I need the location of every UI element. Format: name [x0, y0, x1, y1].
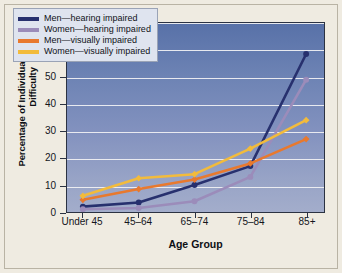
data-point-1-2: [192, 198, 198, 204]
y-tick-label-40: 40: [30, 99, 56, 109]
legend-item-3: Women—visually impaired: [18, 46, 151, 57]
x-tick-mark-0: [82, 213, 83, 218]
legend-item-2: Men—visually impaired: [18, 35, 151, 46]
x-tick-mark-1: [138, 213, 139, 218]
data-point-1-0: [80, 206, 86, 212]
series-line-1: [83, 80, 306, 210]
series-1: [80, 77, 309, 212]
legend-swatch-0: [18, 17, 39, 21]
x-tick-mark-3: [251, 213, 252, 218]
chart-legend: Men—hearing impairedWomen—hearing impair…: [13, 8, 158, 62]
legend-swatch-1: [18, 28, 39, 32]
data-point-2-1: [135, 186, 142, 193]
data-point-1-3: [247, 174, 253, 180]
y-tick-label-20: 20: [30, 153, 56, 163]
data-point-0-1: [136, 200, 142, 206]
x-tick-mark-2: [195, 213, 196, 218]
y-tick-label-10: 10: [30, 181, 56, 191]
legend-item-0: Men—hearing impaired: [18, 13, 151, 24]
legend-label-2: Men—visually impaired: [44, 36, 137, 45]
legend-swatch-2: [18, 39, 39, 43]
series-line-2: [83, 139, 306, 200]
data-point-1-1: [136, 205, 142, 211]
chart-figure: Percentage of Individuals Reporting Diff…: [0, 0, 342, 273]
series-2: [80, 136, 310, 203]
legend-swatch-3: [18, 50, 39, 54]
data-point-1-4: [303, 77, 309, 83]
y-tick-mark-0: [60, 213, 66, 214]
y-tick-label-30: 30: [30, 126, 56, 136]
y-tick-label-50: 50: [30, 72, 56, 82]
legend-label-3: Women—visually impaired: [44, 47, 150, 56]
legend-label-0: Men—hearing impaired: [44, 14, 138, 23]
legend-item-1: Women—hearing impaired: [18, 24, 151, 35]
x-axis-title: Age Group: [66, 238, 325, 250]
data-point-0-4: [303, 51, 309, 57]
legend-label-1: Women—hearing impaired: [44, 25, 151, 34]
x-tick-mark-4: [307, 213, 308, 218]
data-point-3-1: [135, 175, 142, 182]
